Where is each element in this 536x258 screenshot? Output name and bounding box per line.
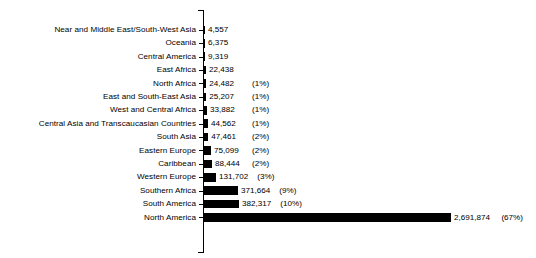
value-label: 4,557 [208, 23, 228, 36]
percent-label: (1%) [252, 103, 269, 116]
bar-row: East Africa22,438 [0, 63, 536, 76]
horizontal-bar-chart: Near and Middle East/South-West Asia4,55… [0, 0, 536, 258]
bar-row: Caribbean88,444(2%) [0, 157, 536, 170]
category-label: Oceania [0, 36, 196, 49]
percent-label: (2%) [252, 144, 269, 157]
category-label: Southern Africa [0, 184, 196, 197]
value-label: 25,207 [209, 90, 234, 103]
bar [204, 66, 206, 75]
bar-row: Western Europe131,702(3%) [0, 170, 536, 183]
value-label: 24,482 [209, 77, 234, 90]
category-label: Eastern Europe [0, 144, 196, 157]
bar-row: West and Central Africa33,882(1%) [0, 103, 536, 116]
category-label: Western Europe [0, 170, 196, 183]
bar-row: Eastern Europe75,099(2%) [0, 144, 536, 157]
value-label: 131,702 [219, 170, 248, 183]
value-label: 9,319 [208, 50, 228, 63]
percent-label: (10%) [280, 197, 302, 210]
value-label: 6,375 [208, 36, 228, 49]
bar-row: Central Asia and Transcaucasian Countrie… [0, 117, 536, 130]
axis-tick [199, 110, 203, 111]
percent-label: (1%) [252, 77, 269, 90]
axis-tick [199, 97, 203, 98]
value-label: 88,444 [215, 157, 240, 170]
percent-label: (9%) [279, 184, 296, 197]
bar [204, 52, 205, 61]
bar-row: Central America9,319 [0, 50, 536, 63]
bar [204, 133, 208, 142]
percent-label: (1%) [252, 117, 269, 130]
axis-tick [199, 70, 203, 71]
value-label: 2,691,874 [454, 211, 490, 224]
value-label: 75,099 [214, 144, 239, 157]
category-label: Central America [0, 50, 196, 63]
category-label: East and South-East Asia [0, 90, 196, 103]
axis-tick [199, 57, 203, 58]
bar [204, 186, 238, 195]
bar [204, 39, 205, 48]
bar-row: Near and Middle East/South-West Asia4,55… [0, 23, 536, 36]
bar-row: East and South-East Asia25,207(1%) [0, 90, 536, 103]
bar [204, 160, 212, 169]
percent-label: (1%) [252, 90, 269, 103]
bar-row: Oceania6,375 [0, 36, 536, 49]
percent-label: (67%) [501, 211, 523, 224]
bar [204, 200, 239, 209]
category-label: North Africa [0, 77, 196, 90]
bar [204, 213, 451, 222]
axis-cap-top [198, 10, 204, 11]
value-label: 47,461 [211, 130, 236, 143]
bar-row: North Africa24,482(1%) [0, 77, 536, 90]
percent-label: (2%) [252, 130, 269, 143]
axis-tick [199, 83, 203, 84]
category-label: East Africa [0, 63, 196, 76]
bar-row: South Asia47,461(2%) [0, 130, 536, 143]
bar [204, 79, 206, 88]
bar-row: South America382,317(10%) [0, 197, 536, 210]
axis-tick [199, 191, 203, 192]
axis-tick [199, 150, 203, 151]
category-label: Central Asia and Transcaucasian Countrie… [0, 117, 196, 130]
bar-row: North America2,691,874(67%) [0, 211, 536, 224]
category-label: West and Central Africa [0, 103, 196, 116]
axis-tick [199, 217, 203, 218]
value-label: 382,317 [242, 197, 271, 210]
axis-tick [199, 43, 203, 44]
axis-tick [199, 30, 203, 31]
bar [204, 26, 205, 35]
bar [204, 119, 208, 128]
axis-cap-bottom [198, 252, 204, 253]
bar-row: Southern Africa371,664(9%) [0, 184, 536, 197]
category-label: South Asia [0, 130, 196, 143]
bar [204, 93, 206, 102]
axis-tick [199, 204, 203, 205]
value-label: 371,664 [241, 184, 270, 197]
axis-tick [199, 124, 203, 125]
axis-tick [199, 177, 203, 178]
value-label: 33,882 [210, 103, 235, 116]
category-label: Caribbean [0, 157, 196, 170]
axis-tick [199, 137, 203, 138]
category-label: South America [0, 197, 196, 210]
bar [204, 146, 211, 155]
bar [204, 173, 216, 182]
bar [204, 106, 207, 115]
percent-label: (3%) [257, 170, 274, 183]
axis-tick [199, 164, 203, 165]
value-label: 22,438 [209, 63, 234, 76]
value-label: 44,562 [211, 117, 236, 130]
category-label: Near and Middle East/South-West Asia [0, 23, 196, 36]
category-label: North America [0, 211, 196, 224]
percent-label: (2%) [252, 157, 269, 170]
